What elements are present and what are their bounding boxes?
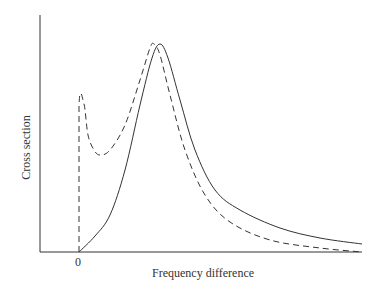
y-axis-label: Cross section	[19, 108, 34, 188]
dashed-curve	[79, 43, 362, 252]
x-tick-zero: 0	[75, 255, 81, 270]
x-axis-label: Frequency difference	[152, 266, 254, 281]
chart-canvas	[0, 0, 380, 287]
solid-curve	[79, 44, 362, 252]
